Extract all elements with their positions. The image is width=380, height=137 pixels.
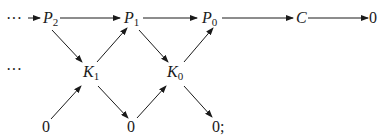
node-zero-top: 0 [369,10,377,26]
node-p0-sub: 0 [212,16,218,28]
node-p1-sub: 1 [134,16,140,28]
node-k1-sub: 1 [94,70,100,82]
node-p1: P1 [124,10,139,28]
node-k1-base: K [83,63,94,80]
node-zero-bottom-2: 0 [127,119,135,135]
node-k0: K0 [167,64,183,82]
node-p0: P0 [202,10,217,28]
node-p2-base: P [43,9,53,26]
ellipsis-middle: ··· [6,62,22,78]
node-zero-bottom-3: 0; [212,119,224,135]
node-p0-base: P [202,9,212,26]
node-p2-sub: 2 [53,16,59,28]
node-c: C [296,10,307,26]
node-k0-base: K [167,63,178,80]
node-zero-bottom-1: 0 [42,119,50,135]
ellipsis-top: ··· [6,11,22,27]
node-k1: K1 [83,64,99,82]
node-p1-base: P [124,9,134,26]
node-k0-sub: 0 [178,70,184,82]
node-p2: P2 [43,10,58,28]
